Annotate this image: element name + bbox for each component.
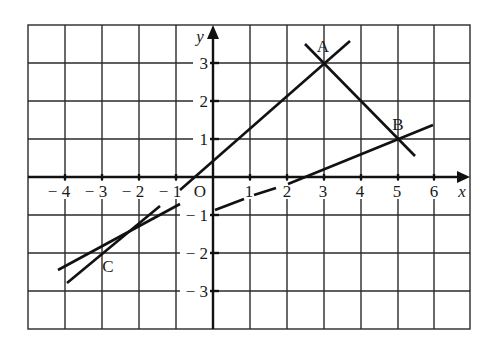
point-c-label: C xyxy=(102,257,113,276)
x-tick-label: 6 xyxy=(430,182,439,201)
x-tick-label: 2 xyxy=(283,182,292,201)
x-tick-label: 1 xyxy=(245,182,254,201)
x-tick-label: 4 xyxy=(356,182,365,201)
x-tick-label: − 2 xyxy=(122,182,144,201)
y-axis-arrow-icon xyxy=(207,25,219,39)
y-tick-label: − 3 xyxy=(186,282,208,301)
y-tick-label: 3 xyxy=(200,54,209,73)
x-tick-label: 5 xyxy=(393,182,402,201)
x-axis-label: x xyxy=(457,182,466,201)
x-tick-label: − 4 xyxy=(48,182,71,201)
y-tick-label: − 2 xyxy=(186,244,208,263)
y-tick-label: 2 xyxy=(200,92,209,111)
y-axis-label: y xyxy=(194,27,204,46)
y-tick-label: − 1 xyxy=(186,206,208,225)
coordinate-diagram: − 4 − 3 − 2 − 1 1 2 3 4 5 6 3 2 1 − 1 − … xyxy=(0,0,492,348)
point-a-label: A xyxy=(317,37,330,56)
x-tick-label: − 3 xyxy=(85,182,107,201)
x-tick-label: 3 xyxy=(319,182,328,201)
origin-label: O xyxy=(194,182,206,201)
y-tick-label: 1 xyxy=(200,130,209,149)
point-b-label: B xyxy=(392,115,403,134)
x-tick-label: − 1 xyxy=(159,182,181,201)
